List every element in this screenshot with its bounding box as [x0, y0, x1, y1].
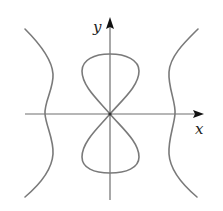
right-branch-curve — [169, 29, 198, 197]
origin-point — [108, 112, 111, 115]
x-axis-label: x — [195, 120, 204, 138]
y-axis-label: y — [92, 18, 102, 36]
curve-diagram: x y — [0, 0, 223, 211]
left-branch-curve — [25, 29, 53, 197]
